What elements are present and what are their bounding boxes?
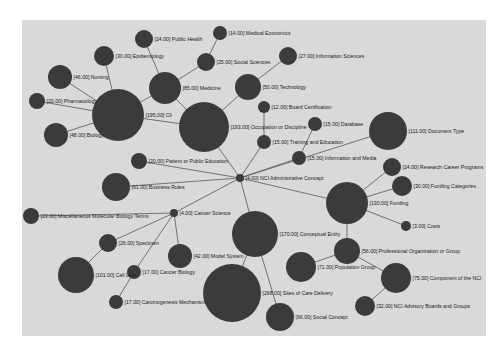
node-label-public-health: [24.00] Public Health bbox=[155, 36, 203, 42]
graph-nodes bbox=[23, 26, 412, 331]
graph-node-conceptual-entity[interactable] bbox=[232, 211, 278, 257]
node-label-training-education: [15.00] Training and Education bbox=[273, 139, 343, 145]
node-label-nci-admin: [4.00] NCI Administrative Concept bbox=[246, 175, 324, 181]
graph-node-misc-molecular[interactable] bbox=[23, 208, 39, 224]
node-label-patient-education: [20.00] Patient or Public Education bbox=[149, 158, 229, 164]
graph-node-component-nci[interactable] bbox=[381, 263, 411, 293]
node-label-social-concept: [66.00] Social Concept bbox=[296, 314, 349, 320]
node-label-technology: [50.00] Technology bbox=[263, 84, 307, 90]
node-label-document-type: [111.00] Document Type bbox=[409, 128, 465, 134]
node-label-professional-org: [56.00] Professional Organization or Gro… bbox=[362, 248, 461, 254]
graph-node-information-media[interactable] bbox=[292, 151, 306, 165]
graph-node-research-career[interactable] bbox=[383, 158, 401, 176]
node-label-information-sciences: [27.00] Information Sciences bbox=[299, 53, 365, 59]
graph-node-board-certification[interactable] bbox=[258, 101, 270, 113]
graph-node-model-system[interactable] bbox=[168, 244, 192, 268]
node-label-costs: [3.00] Costs bbox=[413, 223, 441, 229]
node-label-database: [15.00] Database bbox=[324, 121, 364, 127]
node-label-specimen: [26.00] Specimen bbox=[119, 240, 159, 246]
node-label-nci-advisory: [32.00] NCI Advisory Boards and Groups bbox=[377, 303, 471, 309]
graph-node-funding-categories[interactable] bbox=[392, 176, 412, 196]
node-label-component-nci: [75.00] Component of the NCI bbox=[413, 275, 482, 281]
graph-node-carcinogenesis[interactable] bbox=[109, 295, 123, 309]
graph-node-nursing[interactable] bbox=[48, 65, 72, 89]
node-label-cancer-science: [4.00] Cancer Science bbox=[180, 210, 231, 216]
graph-node-sites-of-care[interactable] bbox=[203, 264, 261, 322]
node-label-population-group: [71.00] Population Group bbox=[318, 264, 376, 270]
node-label-misc-molecular: [23.00] Miscellaneous Molecular Biology … bbox=[41, 213, 149, 219]
node-label-social-sciences: [25.00] Social Sciences bbox=[217, 59, 271, 65]
node-label-medical-economics: [14.00] Medical Economics bbox=[229, 30, 291, 36]
graph-labels: [4.00] NCI Administrative Concept[4.00] … bbox=[41, 30, 484, 320]
graph-node-medical-economics[interactable] bbox=[213, 26, 227, 40]
node-label-conceptual-entity: [170.00] Conceptual Entity bbox=[280, 231, 341, 237]
graph-node-database[interactable] bbox=[308, 117, 322, 131]
graph-node-social-sciences[interactable] bbox=[197, 53, 215, 71]
node-label-nursing: [46.00] Nursing bbox=[74, 74, 109, 80]
node-label-medicine: [85.00] Medicine bbox=[183, 85, 221, 91]
node-label-clinical: [195.00] Cli bbox=[146, 112, 172, 118]
node-label-funding-categories: [30.00] Funding Categories bbox=[414, 183, 477, 189]
graph-node-nci-admin[interactable] bbox=[236, 174, 244, 182]
node-label-carcinogenesis: [17.00] Carcinogenesis Mechanism bbox=[125, 299, 206, 305]
node-label-sites-of-care: [268.00] Sites of Care Delivery bbox=[263, 290, 334, 296]
graph-node-business-rules[interactable] bbox=[102, 173, 130, 201]
graph-node-technology[interactable] bbox=[235, 74, 261, 100]
node-label-occupation: [193.00] Occupation or Discipline bbox=[231, 124, 307, 130]
graph-node-cancer-science[interactable] bbox=[170, 209, 178, 217]
node-label-research-career: [24.00] Research Career Programs bbox=[403, 164, 484, 170]
node-label-information-media: [15.00] Information and Media bbox=[308, 155, 377, 161]
graph-node-training-education[interactable] bbox=[257, 135, 271, 149]
graph-node-biology[interactable] bbox=[44, 123, 68, 147]
graph-node-public-health[interactable] bbox=[135, 30, 153, 48]
node-label-biology: [48.00] Biology bbox=[70, 132, 105, 138]
graph-node-funding[interactable] bbox=[326, 182, 368, 224]
concept-network-graph[interactable]: [4.00] NCI Administrative Concept[4.00] … bbox=[0, 0, 504, 355]
node-label-model-system: [42.00] Model System bbox=[194, 253, 244, 259]
graph-node-cell-line[interactable] bbox=[58, 257, 94, 293]
graph-node-document-type[interactable] bbox=[369, 112, 407, 150]
graph-node-epidemiology[interactable] bbox=[94, 46, 114, 66]
node-label-business-rules: [61.00] Business Rules bbox=[132, 184, 185, 190]
node-label-epidemiology: [30.00] Epidemiology bbox=[116, 53, 165, 59]
graph-node-costs[interactable] bbox=[401, 221, 411, 231]
node-label-cancer-biology: [17.00] Cancer Biology bbox=[143, 269, 196, 275]
graph-node-nci-advisory[interactable] bbox=[355, 296, 375, 316]
graph-node-specimen[interactable] bbox=[99, 234, 117, 252]
graph-node-social-concept[interactable] bbox=[266, 303, 294, 331]
graph-node-pharmacology[interactable] bbox=[29, 93, 45, 109]
graph-node-patient-education[interactable] bbox=[131, 153, 147, 169]
graph-node-medicine[interactable] bbox=[149, 72, 181, 104]
node-label-pharmacology: [20.00] Pharmacology bbox=[47, 98, 98, 104]
node-label-cell-line: [101.00] Cell Line bbox=[96, 272, 136, 278]
node-label-board-certification: [12.00] Board Certification bbox=[272, 104, 332, 110]
graph-node-professional-org[interactable] bbox=[334, 238, 360, 264]
node-label-funding: [130.00] Funding bbox=[370, 200, 409, 206]
graph-node-population-group[interactable] bbox=[286, 252, 316, 282]
graph-node-occupation[interactable] bbox=[179, 102, 229, 152]
graph-node-information-sciences[interactable] bbox=[279, 47, 297, 65]
